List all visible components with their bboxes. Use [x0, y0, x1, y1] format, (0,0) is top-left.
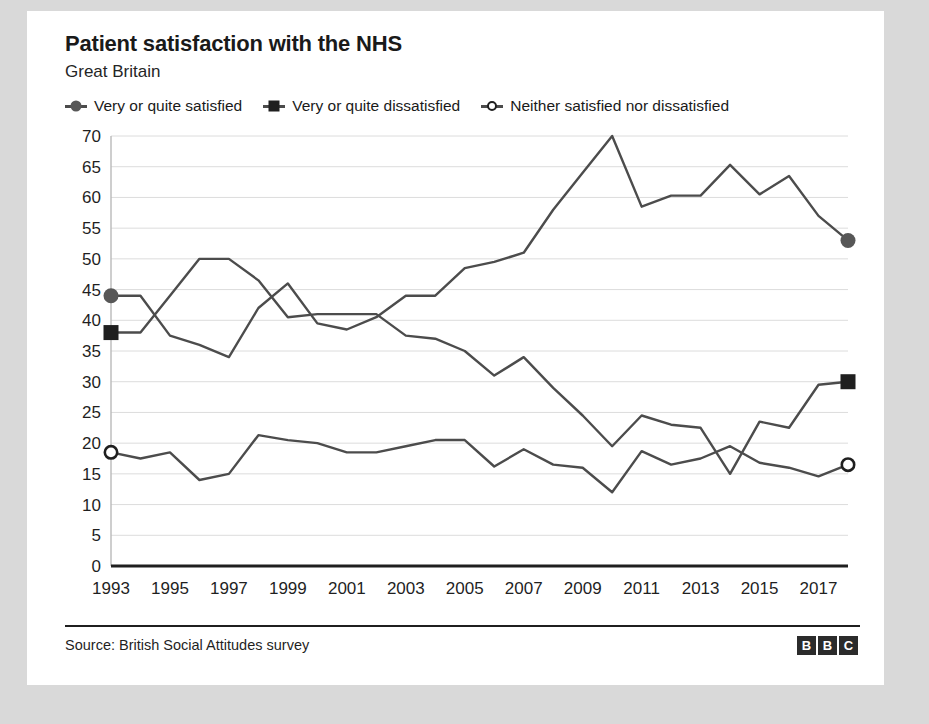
y-axis-tick-label-10: 10: [82, 496, 101, 515]
series-2-marker-end: [841, 374, 856, 389]
chart-subtitle: Great Britain: [65, 61, 860, 82]
x-axis-tick-label-2001: 2001: [328, 579, 366, 598]
x-axis-tick-label-2005: 2005: [446, 579, 484, 598]
series-3-marker-end: [842, 458, 854, 470]
series-1-marker-start: [104, 288, 119, 303]
plot-area: 0510152025303540455055606570199319951997…: [65, 128, 858, 618]
legend-glyph-circle-open-icon: [487, 101, 497, 111]
x-axis-tick-label-2003: 2003: [387, 579, 425, 598]
series-line-1: [111, 136, 848, 357]
y-axis-tick-label-15: 15: [82, 465, 101, 484]
bbc-logo-letter-3: C: [839, 636, 858, 655]
y-axis-tick-label-65: 65: [82, 158, 101, 177]
chart-legend: Very or quite satisfiedVery or quite dis…: [65, 98, 860, 114]
bbc-logo-letter-1: B: [797, 636, 816, 655]
y-axis-tick-label-30: 30: [82, 373, 101, 392]
y-axis-tick-label-55: 55: [82, 219, 101, 238]
chart-card: Patient satisfaction with the NHS Great …: [27, 11, 884, 685]
x-axis-tick-label-2017: 2017: [800, 579, 838, 598]
bbc-logo-letter-2: B: [818, 636, 837, 655]
legend-item-1: Very or quite satisfied: [65, 98, 242, 114]
y-axis-tick-label-70: 70: [82, 128, 101, 146]
x-axis-tick-label-1999: 1999: [269, 579, 307, 598]
legend-item-2: Very or quite dissatisfied: [263, 98, 460, 114]
x-axis-tick-label-1997: 1997: [210, 579, 248, 598]
series-1-marker-end: [841, 233, 856, 248]
y-axis-tick-label-20: 20: [82, 434, 101, 453]
legend-marker-circle-open-icon: [481, 99, 503, 113]
legend-marker-square-filled-icon: [263, 99, 285, 113]
y-axis-tick-label-0: 0: [92, 557, 101, 576]
y-axis-tick-label-5: 5: [92, 526, 101, 545]
chart-card-inner: Patient satisfaction with the NHS Great …: [65, 31, 860, 671]
x-axis-tick-label-2009: 2009: [564, 579, 602, 598]
series-line-3: [111, 435, 848, 492]
x-axis-tick-label-2015: 2015: [741, 579, 779, 598]
x-axis-tick-label-1993: 1993: [92, 579, 130, 598]
series-3-marker-start: [105, 446, 117, 458]
y-axis-tick-label-50: 50: [82, 250, 101, 269]
x-axis-tick-label-2011: 2011: [623, 579, 660, 598]
line-chart-svg: 0510152025303540455055606570199319951997…: [65, 128, 858, 618]
legend-label: Neither satisfied nor dissatisfied: [510, 98, 729, 114]
legend-marker-circle-filled-icon: [65, 99, 87, 113]
x-axis-tick-label-2013: 2013: [682, 579, 720, 598]
y-axis-tick-label-45: 45: [82, 281, 101, 300]
chart-footer: Source: British Social Attitudes survey …: [65, 625, 860, 667]
legend-glyph-square-filled-icon: [269, 101, 280, 112]
bbc-logo: BBC: [797, 636, 858, 655]
source-note: Source: British Social Attitudes survey: [65, 637, 309, 653]
legend-glyph-circle-filled-icon: [71, 101, 82, 112]
legend-item-3: Neither satisfied nor dissatisfied: [481, 98, 729, 114]
screenshot-root: Patient satisfaction with the NHS Great …: [0, 0, 929, 724]
y-axis-tick-label-60: 60: [82, 188, 101, 207]
legend-label: Very or quite dissatisfied: [292, 98, 460, 114]
x-axis-tick-label-2007: 2007: [505, 579, 543, 598]
page-title: Patient satisfaction with the NHS: [65, 31, 860, 57]
x-axis-tick-label-1995: 1995: [151, 579, 189, 598]
y-axis-tick-label-40: 40: [82, 311, 101, 330]
y-axis-tick-label-25: 25: [82, 403, 101, 422]
y-axis-tick-label-35: 35: [82, 342, 101, 361]
footer-divider: [65, 625, 860, 627]
series-2-marker-start: [104, 325, 119, 340]
legend-label: Very or quite satisfied: [94, 98, 242, 114]
series-line-2: [111, 259, 848, 474]
